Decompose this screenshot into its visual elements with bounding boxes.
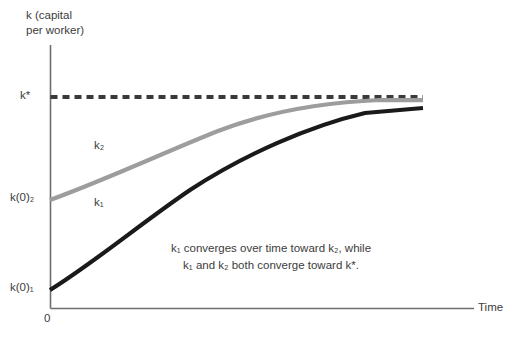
convergence-chart: k (capital per worker) Time k* k(0)₂ k(0… (0, 0, 513, 347)
curve-label-k1: k₁ (94, 196, 104, 208)
y-tick-label-k0-1: k(0)₁ (10, 281, 34, 293)
y-axis-title: k (capital per worker) (26, 8, 84, 38)
chart-annotation: k₁ converges over time toward k₂, while … (140, 240, 402, 274)
curve-label-k2: k₂ (94, 139, 104, 151)
y-tick-label-k0-2: k(0)₂ (10, 191, 34, 203)
chart-canvas (0, 0, 513, 347)
x-axis-title: Time (478, 300, 503, 315)
curve-k2 (50, 100, 423, 200)
y-tick-label-kstar: k* (20, 89, 30, 101)
origin-label: 0 (44, 312, 50, 324)
